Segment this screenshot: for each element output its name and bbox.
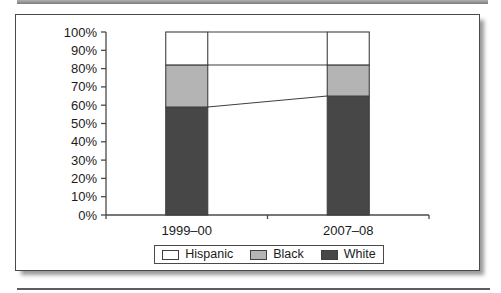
y-tick-label: 100% bbox=[64, 25, 98, 40]
bar-segment-black bbox=[166, 65, 208, 107]
legend-item-white: White bbox=[321, 248, 376, 261]
y-tick-label: 90% bbox=[71, 43, 97, 58]
bar-segment-black bbox=[327, 65, 369, 96]
stacked-bar-chart: 0%10%20%30%40%50%60%70%80%90%100%1999–00… bbox=[16, 15, 479, 270]
bar-segment-white bbox=[327, 96, 369, 215]
y-tick-label: 80% bbox=[71, 61, 97, 76]
x-category-label: 1999–00 bbox=[161, 223, 212, 238]
legend-label-white: White bbox=[344, 248, 376, 261]
y-tick-label: 70% bbox=[71, 79, 97, 94]
legend-swatch-hispanic bbox=[162, 250, 179, 260]
legend-label-black: Black bbox=[273, 248, 304, 261]
legend-item-black: Black bbox=[250, 248, 304, 261]
legend-swatch-black bbox=[250, 250, 267, 260]
bar-segment-white bbox=[166, 107, 208, 215]
bottom-rule bbox=[17, 288, 490, 290]
legend-item-hispanic: Hispanic bbox=[162, 248, 233, 261]
y-tick-label: 10% bbox=[71, 189, 97, 204]
y-tick-label: 40% bbox=[71, 134, 97, 149]
y-tick-label: 60% bbox=[71, 98, 97, 113]
top-rule bbox=[17, 0, 488, 4]
y-tick-label: 20% bbox=[71, 171, 97, 186]
y-tick-label: 30% bbox=[71, 153, 97, 168]
bar-segment-hispanic bbox=[327, 32, 369, 65]
bar-segment-hispanic bbox=[166, 32, 208, 65]
y-tick-label: 50% bbox=[71, 116, 97, 131]
series-connector-line bbox=[208, 96, 328, 107]
legend-swatch-white bbox=[321, 250, 338, 260]
y-tick-label: 0% bbox=[78, 208, 97, 223]
legend: Hispanic Black White bbox=[154, 245, 384, 264]
x-category-label: 2007–08 bbox=[323, 223, 374, 238]
figure-frame: 0%10%20%30%40%50%60%70%80%90%100%1999–00… bbox=[15, 14, 480, 271]
legend-label-hispanic: Hispanic bbox=[185, 248, 233, 261]
